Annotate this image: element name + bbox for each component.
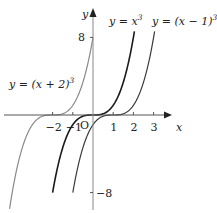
- x-tick-label: 1: [110, 121, 117, 134]
- cubic-graphs-chart: −2−11238−8 x y O y = (x + 2)3 y = x3 y =…: [0, 0, 217, 213]
- series-label-x-minus-1: y = (x − 1)3: [151, 13, 217, 28]
- x-tick-label: 3: [151, 121, 158, 134]
- y-axis-label: y: [81, 8, 89, 21]
- y-axis-arrow-icon: [90, 8, 97, 17]
- series-curve-1: [53, 31, 135, 192]
- series-label-x-plus-2: y = (x + 2)3: [8, 76, 74, 91]
- y-tick-label: 8: [78, 31, 85, 44]
- series-label-x-cubed: y = x3: [108, 13, 143, 28]
- series-curve-2: [73, 31, 155, 192]
- x-axis-arrow-icon: [164, 112, 172, 119]
- x-axis-label: x: [176, 121, 183, 134]
- x-tick-label: 2: [130, 121, 137, 134]
- x-tick-label: −2: [46, 121, 62, 134]
- y-tick-label: −8: [96, 187, 112, 200]
- origin-label: O: [80, 119, 89, 132]
- ticks: −2−11238−8: [46, 31, 158, 199]
